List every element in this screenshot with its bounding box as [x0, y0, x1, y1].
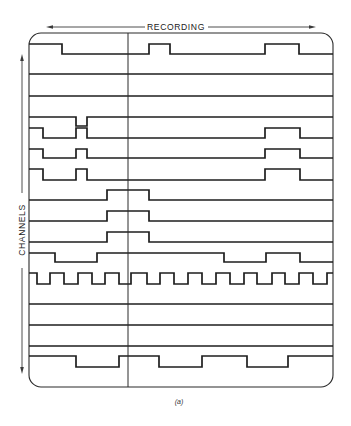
timing-diagram-canvas: RECORDING CHANNELS (a) [0, 0, 351, 426]
channel-traces [29, 44, 333, 367]
channel-5-trace [29, 128, 333, 138]
channel-1-trace [29, 44, 333, 54]
recording-label: RECORDING [147, 22, 205, 32]
figure-caption: (a) [175, 398, 184, 406]
recording-axis: RECORDING [46, 22, 316, 32]
channel-12-trace [29, 273, 333, 284]
channel-11-trace [29, 253, 333, 262]
channel-10-trace [29, 232, 333, 242]
arrow-left-icon [46, 25, 53, 29]
channel-9-trace [29, 211, 333, 221]
channel-6-trace [29, 149, 333, 158]
channel-4-trace [29, 117, 333, 126]
arrow-right-icon [309, 25, 316, 29]
display-frame [29, 33, 333, 387]
channel-7-trace [29, 169, 333, 180]
arrow-down-icon [20, 367, 24, 374]
channel-8-trace [29, 190, 333, 200]
channel-16-trace [29, 356, 333, 367]
arrow-up-icon [20, 54, 24, 61]
channels-axis: CHANNELS [17, 54, 27, 374]
channels-label: CHANNELS [17, 204, 27, 256]
logic-analyzer-diagram: RECORDING CHANNELS (a) [0, 0, 351, 426]
